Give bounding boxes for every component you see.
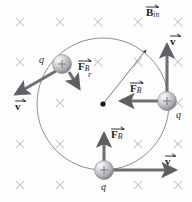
force-arrow-top-left xyxy=(69,72,79,88)
radius-line xyxy=(103,50,146,104)
diagram-canvas xyxy=(0,0,192,202)
charge-label-top-left: q xyxy=(39,55,44,65)
orbit-center-dot xyxy=(100,101,105,106)
particle-bottom xyxy=(95,161,114,180)
force-label-top-left: FB xyxy=(78,58,93,73)
vector-arrow-glyph xyxy=(111,126,126,130)
field-marker xyxy=(56,140,64,148)
vector-arrow-glyph xyxy=(146,4,160,8)
magnetic-field-subscript: in xyxy=(153,10,159,19)
field-marker xyxy=(56,181,64,189)
field-marker xyxy=(134,18,142,26)
force-label-bottom: FB xyxy=(111,126,126,141)
velocity-label-right: v xyxy=(170,33,182,47)
velocity-label-bottom: v xyxy=(165,153,177,167)
charge-label-bottom: q xyxy=(101,182,106,192)
particle-right xyxy=(158,92,177,111)
field-marker xyxy=(16,140,24,148)
field-marker xyxy=(56,18,64,26)
vector-arrow-glyph xyxy=(170,33,182,37)
magnetic-field-label: Bin xyxy=(146,4,160,19)
velocity-label-top-left: v xyxy=(15,98,27,112)
vector-arrow-glyph xyxy=(15,98,27,102)
force-label-right: FB xyxy=(130,80,145,95)
charge-label-right: q xyxy=(176,110,181,120)
force-subscript: B xyxy=(118,132,123,141)
field-marker xyxy=(174,181,182,189)
field-marker xyxy=(94,58,102,66)
field-marker xyxy=(134,140,142,148)
force-subscript: B xyxy=(137,86,142,95)
field-marker xyxy=(16,58,24,66)
field-marker xyxy=(134,181,142,189)
field-marker xyxy=(174,58,182,66)
field-marker xyxy=(174,140,182,148)
field-marker xyxy=(16,181,24,189)
field-marker xyxy=(174,18,182,26)
velocity-arrow-top-left xyxy=(16,71,56,94)
field-marker xyxy=(94,18,102,26)
vector-arrow-glyph xyxy=(165,153,177,157)
force-subscript: B xyxy=(85,64,90,73)
field-marker xyxy=(56,99,64,107)
vector-arrow-glyph xyxy=(130,80,145,84)
particle-top-left xyxy=(53,55,72,74)
physics-diagram: Bin r q v FB q v FB q v xyxy=(0,0,192,202)
field-marker xyxy=(16,18,24,26)
vector-arrow-glyph xyxy=(78,58,93,62)
